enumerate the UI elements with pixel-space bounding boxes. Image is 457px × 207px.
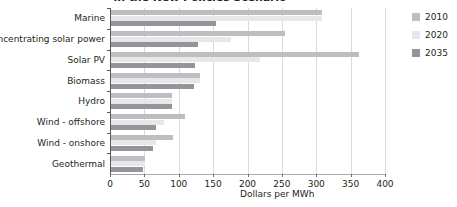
x-tick-label: 250 [273,179,290,189]
y-tick-mark [107,8,110,9]
bar [111,99,172,104]
bar [111,57,260,62]
category-label: Marine [74,13,105,23]
y-tick-mark [107,133,110,134]
chart-title: in the New Policies Scenario [0,0,400,4]
x-tick-mark [144,174,145,177]
x-tick-mark [385,174,386,177]
gridline [351,8,352,174]
category-label: Concentrating solar power [0,34,105,44]
category-label: Solar PV [68,55,105,65]
bar [111,73,200,78]
legend-item[interactable]: 2010 [412,8,457,26]
bar [111,140,156,145]
bar [111,42,198,47]
x-tick-label: 150 [205,179,222,189]
legend-swatch-icon [412,31,420,39]
x-tick-mark [179,174,180,177]
gridline [385,8,386,174]
y-tick-mark [107,153,110,154]
bar [111,84,194,89]
plot-area: 050100150200250300350400 [110,8,385,174]
bar [111,37,231,42]
legend-label: 2020 [425,30,448,40]
bar [111,93,172,98]
x-tick-label: 0 [107,179,113,189]
legend-label: 2035 [425,48,448,58]
y-tick-mark [107,91,110,92]
x-tick-label: 400 [376,179,393,189]
category-label: Wind - offshore [37,117,105,127]
x-tick-mark [248,174,249,177]
bar [111,10,322,15]
legend-label: 2010 [425,12,448,22]
bar [111,125,156,130]
x-tick-label: 100 [170,179,187,189]
bar [111,21,216,26]
bar [111,114,185,119]
x-tick-mark [110,174,111,177]
legend-item[interactable]: 2020 [412,26,457,44]
bar [111,146,153,151]
chart-screenshot: in the New Policies Scenario 05010015020… [0,0,457,207]
chart-legend: 201020202035 [412,8,457,62]
bar [111,156,145,161]
x-tick-label: 200 [239,179,256,189]
x-tick-label: 300 [308,179,325,189]
legend-item[interactable]: 2035 [412,44,457,62]
x-tick-label: 50 [139,179,150,189]
bar [111,167,143,172]
y-tick-mark [107,112,110,113]
bar [111,16,322,21]
bar [111,135,173,140]
bar [111,52,359,57]
y-tick-mark [107,70,110,71]
x-tick-label: 350 [342,179,359,189]
bar [111,31,285,36]
category-label: Biomass [67,76,105,86]
x-tick-mark [282,174,283,177]
legend-swatch-icon [412,13,420,21]
x-axis-title: Dollars per MWh [240,189,314,199]
y-tick-mark [107,29,110,30]
bar [111,161,145,166]
x-tick-mark [316,174,317,177]
category-label: Hydro [78,96,105,106]
legend-swatch-icon [412,49,420,57]
y-tick-mark [107,50,110,51]
category-label: Geothermal [52,159,105,169]
category-label: Wind - onshore [37,138,105,148]
gridline [316,8,317,174]
bar [111,104,172,109]
x-tick-mark [213,174,214,177]
bar [111,78,200,83]
x-tick-mark [351,174,352,177]
bar [111,63,195,68]
bar [111,120,164,125]
